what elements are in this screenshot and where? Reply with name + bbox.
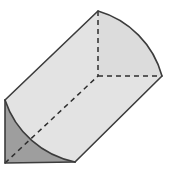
geometric-figure-canvas xyxy=(0,0,173,173)
front-bottom-horizontal-edge xyxy=(5,162,75,163)
back-quarter-disc-face xyxy=(98,11,162,76)
quarter-cylinder-solid-svg xyxy=(0,0,173,173)
